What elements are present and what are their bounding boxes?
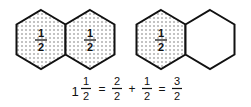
denominator: 2 [38, 41, 44, 53]
fraction-term: 1 2 [81, 75, 91, 102]
equation: 1 1 2 = 2 2 + 1 2 = 3 2 [71, 75, 182, 102]
hexagon-empty [186, 10, 235, 69]
numerator: 1 [83, 75, 89, 87]
denominator: 2 [83, 90, 89, 102]
denominator: 2 [114, 90, 120, 102]
equals-sign: = [158, 82, 165, 96]
whole-number: 1 [71, 84, 78, 99]
fraction-hexagon-diagram: 1 2 1 2 1 2 1 1 2 = 2 2 [0, 0, 251, 107]
numerator: 1 [144, 75, 150, 87]
fraction-term: 3 2 [172, 75, 182, 102]
numerator: 3 [174, 75, 180, 87]
fraction-term: 1 2 [142, 75, 152, 102]
denominator: 2 [144, 90, 150, 102]
hexagon-group-right: 1 2 [137, 10, 235, 69]
equals-sign: = [98, 82, 105, 96]
numerator: 1 [158, 27, 164, 39]
numerator: 2 [114, 75, 120, 87]
denominator: 2 [174, 90, 180, 102]
numerator: 1 [38, 27, 44, 39]
denominator: 2 [158, 41, 164, 53]
denominator: 2 [87, 41, 93, 53]
numerator: 1 [87, 27, 93, 39]
fraction-label: 1 2 [34, 27, 48, 53]
plus-sign: + [128, 82, 135, 96]
hexagon-group-left: 1 2 1 2 [17, 10, 115, 69]
fraction-term: 2 2 [112, 75, 122, 102]
